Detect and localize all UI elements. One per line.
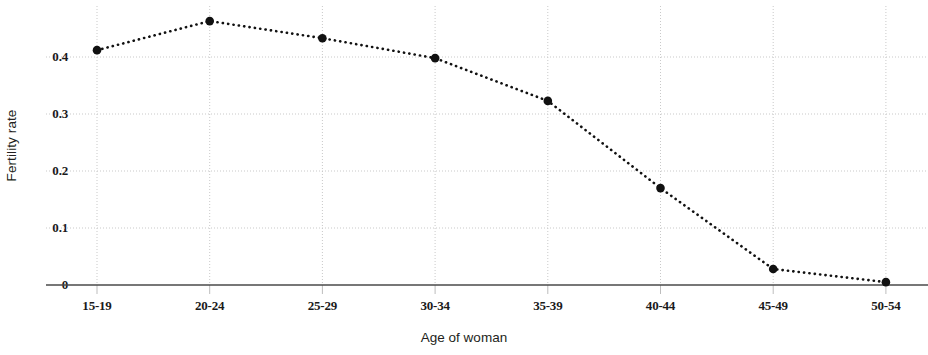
x-axis-tick-label: 45-49 [713, 298, 833, 314]
fertility-rate-line-chart: Fertility rate 00.10.20.30.4 15-1920-242… [0, 0, 928, 355]
x-axis-tick-labels: 15-1920-2425-2930-3435-3940-4445-4950-54 [0, 0, 928, 355]
x-axis-tick-label: 35-39 [488, 298, 608, 314]
x-axis-tick-label: 15-19 [37, 298, 157, 314]
x-axis-tick-label: 25-29 [262, 298, 382, 314]
x-axis-tick-label: 50-54 [826, 298, 928, 314]
x-axis-tick-label: 20-24 [150, 298, 270, 314]
x-axis-title: Age of woman [0, 330, 928, 345]
x-axis-tick-label: 30-34 [375, 298, 495, 314]
x-axis-tick-label: 40-44 [601, 298, 721, 314]
